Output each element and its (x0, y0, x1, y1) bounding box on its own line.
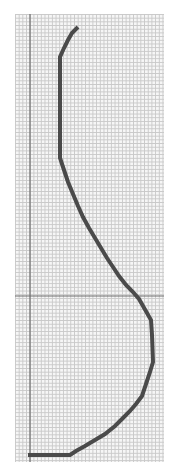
plotted-curve (28, 27, 153, 455)
plot-overlay (0, 0, 173, 472)
